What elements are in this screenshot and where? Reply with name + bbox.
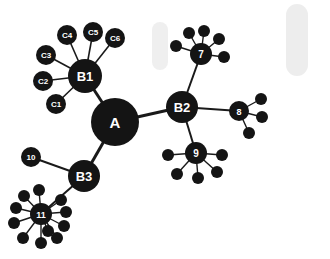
node-A[interactable]: A (91, 98, 139, 146)
node-label-N7: 7 (198, 49, 204, 60)
node-circle-L11j[interactable] (55, 194, 67, 206)
node-label-C6: C6 (110, 34, 121, 43)
node-C5[interactable]: C5 (83, 22, 103, 42)
node-circle-L9c[interactable] (171, 168, 183, 180)
node-circle-L11f[interactable] (35, 237, 47, 249)
node-L11f[interactable] (35, 237, 47, 249)
node-C6[interactable]: C6 (105, 28, 125, 48)
node-L11i[interactable] (60, 206, 72, 218)
node-circle-L9d[interactable] (192, 172, 204, 184)
node-L11b[interactable] (33, 184, 45, 196)
node-circle-L9b[interactable] (216, 149, 228, 161)
node-N10[interactable]: 10 (21, 147, 41, 167)
node-circle-L11a[interactable] (18, 190, 30, 202)
node-L7d[interactable] (170, 40, 182, 52)
node-L8a[interactable] (255, 93, 267, 105)
scan-artifact-layer (152, 4, 308, 76)
node-circle-L11k[interactable] (42, 225, 54, 237)
node-L8c[interactable] (243, 127, 255, 139)
node-circle-L11i[interactable] (60, 206, 72, 218)
node-L9b[interactable] (216, 149, 228, 161)
node-B2[interactable]: B2 (166, 91, 198, 123)
node-circle-L11b[interactable] (33, 184, 45, 196)
node-C4[interactable]: C4 (57, 25, 77, 45)
node-L7c[interactable] (213, 33, 225, 45)
node-circle-L11d[interactable] (8, 217, 20, 229)
node-L9d[interactable] (192, 172, 204, 184)
node-C1[interactable]: C1 (46, 94, 66, 114)
node-circle-L11c[interactable] (10, 202, 22, 214)
node-circle-L11h[interactable] (58, 220, 70, 232)
node-circle-L11e[interactable] (17, 232, 29, 244)
node-L7b[interactable] (198, 25, 210, 37)
node-circle-L9a[interactable] (162, 149, 174, 161)
node-L7e[interactable] (218, 51, 230, 63)
node-circle-L7b[interactable] (198, 25, 210, 37)
node-label-A: A (110, 114, 121, 131)
node-N11[interactable]: 11 (30, 203, 52, 225)
node-label-N8: 8 (236, 107, 241, 117)
node-label-B2: B2 (174, 100, 191, 115)
node-layer: AB1B2B3C1C2C3C4C5C67891011 (8, 22, 268, 249)
smudge-left (152, 22, 168, 70)
node-circle-L7e[interactable] (218, 51, 230, 63)
node-L8b[interactable] (256, 111, 268, 123)
node-L11d[interactable] (8, 217, 20, 229)
network-diagram: AB1B2B3C1C2C3C4C5C67891011 (0, 0, 330, 259)
node-L9c[interactable] (171, 168, 183, 180)
node-N8[interactable]: 8 (229, 101, 249, 121)
node-L11a[interactable] (18, 190, 30, 202)
node-N9[interactable]: 9 (185, 142, 207, 164)
node-label-N11: 11 (36, 210, 46, 220)
network-graph-canvas: AB1B2B3C1C2C3C4C5C67891011 (0, 0, 330, 259)
node-circle-L8a[interactable] (255, 93, 267, 105)
node-label-N10: 10 (27, 153, 36, 162)
node-label-C3: C3 (41, 51, 52, 60)
node-C2[interactable]: C2 (33, 71, 53, 91)
node-L7a[interactable] (183, 27, 195, 39)
node-L11h[interactable] (58, 220, 70, 232)
node-circle-L7a[interactable] (183, 27, 195, 39)
node-L9e[interactable] (211, 166, 223, 178)
node-L11e[interactable] (17, 232, 29, 244)
node-circle-L7d[interactable] (170, 40, 182, 52)
node-L11c[interactable] (10, 202, 22, 214)
node-circle-L8c[interactable] (243, 127, 255, 139)
node-label-C1: C1 (51, 100, 62, 109)
node-label-C4: C4 (62, 31, 73, 40)
node-label-B3: B3 (76, 169, 93, 184)
node-circle-L7c[interactable] (213, 33, 225, 45)
node-L9a[interactable] (162, 149, 174, 161)
node-circle-L8b[interactable] (256, 111, 268, 123)
node-label-C5: C5 (88, 28, 99, 37)
node-N7[interactable]: 7 (190, 43, 212, 65)
smudge-right (286, 4, 308, 76)
node-label-N9: 9 (193, 148, 199, 159)
node-B3[interactable]: B3 (68, 160, 100, 192)
node-B1[interactable]: B1 (68, 59, 102, 93)
node-C3[interactable]: C3 (36, 45, 56, 65)
node-label-C2: C2 (38, 77, 49, 86)
node-circle-L9e[interactable] (211, 166, 223, 178)
node-L11j[interactable] (55, 194, 67, 206)
node-L11k[interactable] (42, 225, 54, 237)
node-label-B1: B1 (77, 69, 94, 84)
